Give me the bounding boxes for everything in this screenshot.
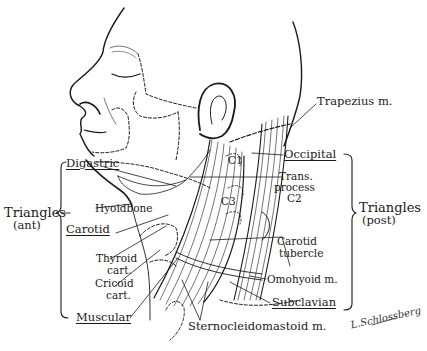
anterior-bracket [56, 162, 68, 318]
label-trapezius: Trapezius m. [317, 96, 392, 108]
label-sternocleidomastoid: Sternocleidomastoid m. [188, 321, 326, 333]
label-trans-process-1: Trans. [279, 171, 313, 182]
label-cricoid-cart-1: Cricoid [95, 278, 134, 289]
label-omohyoid: Omohyoid m. [267, 274, 338, 285]
posterior-bracket [344, 154, 356, 310]
label-carotid-tubercle-2: tubercle [279, 248, 323, 259]
lips [84, 130, 106, 133]
digastric-muscle [118, 176, 186, 194]
label-thyroid-cart-2: cart. [107, 265, 132, 276]
label-digastric: Digastric [66, 158, 119, 170]
label-carotid-tubercle-1: Carotid [277, 236, 317, 247]
posterior-triangles-subtitle: (post) [362, 215, 396, 227]
back-of-head [284, 22, 302, 146]
label-hyoid-bone: Hyoidbone [95, 203, 153, 214]
anatomical-illustration [0, 0, 427, 351]
eye [112, 74, 140, 77]
label-subclavian: Subclavian [272, 297, 336, 309]
label-c3: C3 [221, 196, 236, 207]
anterior-triangles-subtitle: (ant) [13, 220, 41, 232]
label-thyroid-cart-1: Thyroid [96, 253, 137, 264]
face-profile [70, 8, 124, 156]
neck-triangles-diagram: Triangles (ant) Digastric Hyoidbone Caro… [0, 0, 427, 351]
ear [199, 83, 235, 138]
label-muscular: Muscular [76, 312, 131, 324]
label-carotid: Carotid [66, 224, 110, 236]
label-trans-process-2: process [274, 182, 315, 193]
omohyoid-muscle [176, 252, 262, 274]
label-trans-process-3: C2 [287, 193, 302, 204]
label-cricoid-cart-2: cart. [106, 290, 131, 301]
label-c1: C1 [228, 155, 243, 166]
label-occipital: Occipital [284, 149, 336, 161]
